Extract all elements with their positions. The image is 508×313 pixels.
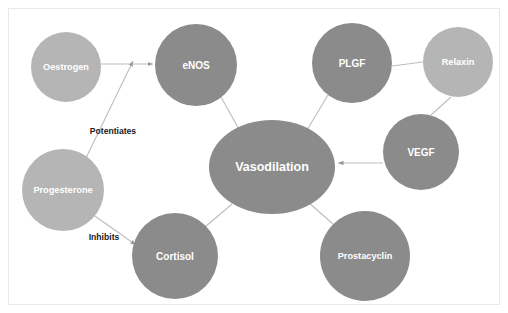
node-vasodilation[interactable]: Vasodilation [209, 120, 335, 214]
node-plgf[interactable]: PLGF [312, 23, 392, 103]
edge-plgf-vasodilation [307, 95, 328, 130]
node-shape-enos [155, 24, 237, 106]
concept-map-svg: VasodilationOestrogeneNOSPLGFRelaxinVEGF… [0, 0, 508, 313]
node-shape-vegf [383, 114, 459, 190]
node-shape-cortisol [132, 213, 218, 299]
node-shape-plgf [312, 23, 392, 103]
node-shape-vasodilation [209, 120, 335, 214]
node-oestrogen[interactable]: Oestrogen [31, 32, 101, 102]
edge-enos-vasodilation [221, 97, 240, 131]
node-cortisol[interactable]: Cortisol [132, 213, 218, 299]
node-vegf[interactable]: VEGF [383, 114, 459, 190]
edge-prostacyclin-vasodilation [308, 202, 333, 224]
node-prostacyclin[interactable]: Prostacyclin [320, 211, 410, 301]
node-enos[interactable]: eNOS [155, 24, 237, 106]
node-shape-progesterone [22, 149, 104, 231]
node-relaxin[interactable]: Relaxin [423, 27, 493, 97]
edge-relaxin-vegf [431, 97, 451, 115]
edge-plgf-relaxin [392, 62, 423, 66]
node-progesterone[interactable]: Progesterone [22, 149, 104, 231]
node-shape-relaxin [423, 27, 493, 97]
nodes-layer: VasodilationOestrogeneNOSPLGFRelaxinVEGF… [22, 23, 493, 301]
node-shape-prostacyclin [320, 211, 410, 301]
edge-cortisol-vasodilation [205, 204, 232, 227]
edge-label-potentiates: Potentiates [90, 126, 137, 136]
diagram-canvas: VasodilationOestrogeneNOSPLGFRelaxinVEGF… [0, 0, 508, 313]
edge-label-inhibits: Inhibits [89, 232, 120, 242]
node-shape-oestrogen [31, 32, 101, 102]
